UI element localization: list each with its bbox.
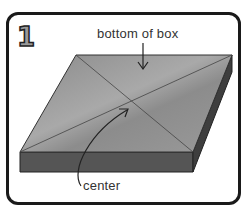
box-illustration (0, 0, 246, 208)
